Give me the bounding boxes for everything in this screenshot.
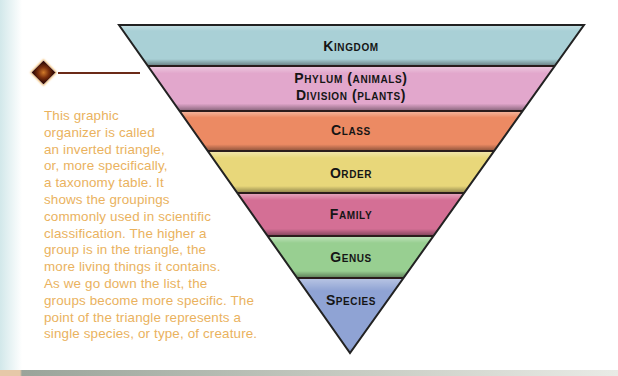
label-genus: Genus [301, 249, 401, 265]
description-line: As we go down the list, the [44, 276, 314, 293]
label-phylum: Phylum (animals) Division (plants) [260, 70, 442, 104]
label-order: Order [301, 165, 401, 181]
label-phylum-animals: Phylum (animals) [260, 70, 442, 87]
label-species: Species [301, 292, 401, 308]
label-class: Class [301, 122, 401, 138]
label-family: Family [301, 206, 401, 222]
description-line: organizer is called [44, 125, 314, 142]
description-line: group is in the triangle, the [44, 242, 314, 259]
description-line: point of the triangle represents a [44, 310, 314, 327]
description-line: This graphic [44, 108, 314, 125]
description-line: classification. The higher a [44, 226, 314, 243]
description-line: a taxonomy table. It [44, 175, 314, 192]
description-text: This graphic organizer is called an inve… [44, 108, 314, 343]
description-line: groups become more specific. The [44, 293, 314, 310]
label-division-plants: Division (plants) [260, 87, 442, 104]
bottom-border-strip [0, 370, 618, 376]
pointer-line [58, 72, 140, 74]
description-line: shows the groupings [44, 192, 314, 209]
description-line: commonly used in scientific [44, 209, 314, 226]
description-line: or, more specifically, [44, 158, 314, 175]
description-line: single species, or type, of creature. [44, 326, 314, 343]
description-line: an inverted triangle, [44, 142, 314, 159]
description-line: more living things it contains. [44, 259, 314, 276]
label-kingdom: Kingdom [301, 38, 401, 54]
